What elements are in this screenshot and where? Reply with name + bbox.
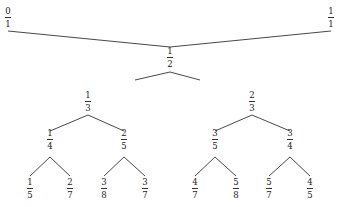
fraction-node: 47 (188, 178, 202, 200)
tree-edge (30, 157, 50, 176)
fraction-numerator: 4 (303, 178, 317, 187)
fraction-denominator: 2 (163, 60, 177, 69)
fraction-numerator: 1 (163, 47, 177, 56)
fraction-node: 38 (97, 178, 111, 200)
fraction-denominator: 5 (208, 142, 222, 151)
fraction-node: 27 (63, 178, 77, 200)
fraction-node: 45 (303, 178, 317, 200)
fraction-numerator: 1 (324, 7, 338, 16)
fraction-denominator: 5 (117, 142, 131, 151)
fraction-bar (249, 101, 255, 102)
fraction-denominator: 8 (97, 191, 111, 200)
fraction-denominator: 8 (229, 191, 243, 200)
fraction-bar (287, 139, 293, 140)
fraction-denominator: 5 (303, 191, 317, 200)
fraction-node: 25 (117, 129, 131, 151)
fraction-bar (47, 139, 53, 140)
tree-edge (124, 157, 145, 176)
fraction-node: 34 (283, 129, 297, 151)
fraction-bar (85, 101, 91, 102)
fraction-denominator: 7 (63, 191, 77, 200)
fraction-denominator: 4 (283, 142, 297, 151)
fraction-denominator: 1 (324, 20, 338, 29)
fraction-numerator: 3 (283, 129, 297, 138)
fraction-numerator: 3 (208, 129, 222, 138)
fraction-bar (212, 139, 218, 140)
fraction-denominator: 4 (43, 142, 57, 151)
tree-edge (170, 31, 331, 47)
fraction-node: 12 (163, 47, 177, 69)
fraction-denominator: 1 (1, 20, 15, 29)
fraction-bar (307, 188, 313, 189)
fraction-numerator: 2 (63, 178, 77, 187)
fraction-numerator: 2 (117, 129, 131, 138)
fraction-numerator: 5 (229, 178, 243, 187)
tree-edge (269, 157, 290, 176)
fraction-node: 15 (23, 178, 37, 200)
fraction-denominator: 5 (23, 191, 37, 200)
tree-edge (290, 157, 310, 176)
tree-edge (195, 157, 215, 176)
fraction-node: 23 (245, 91, 259, 113)
fraction-node: 13 (81, 91, 95, 113)
fraction-bar (121, 139, 127, 140)
fraction-bar (142, 188, 148, 189)
fraction-bar (266, 188, 272, 189)
fraction-numerator: 1 (81, 91, 95, 100)
fraction-bar (27, 188, 33, 189)
tree-edge (215, 157, 236, 176)
fraction-bar (167, 57, 173, 58)
fraction-node: 11 (324, 7, 338, 29)
tree-edge (170, 72, 200, 80)
fraction-bar (192, 188, 198, 189)
fraction-node: 14 (43, 129, 57, 151)
fraction-node: 57 (262, 178, 276, 200)
fraction-numerator: 1 (43, 129, 57, 138)
fraction-denominator: 7 (262, 191, 276, 200)
fraction-bar (101, 188, 107, 189)
fraction-node: 37 (138, 178, 152, 200)
tree-edge (8, 31, 170, 47)
tree-edge (135, 72, 170, 80)
fraction-denominator: 7 (188, 191, 202, 200)
fraction-node: 01 (1, 7, 15, 29)
fraction-node: 35 (208, 129, 222, 151)
fraction-numerator: 3 (97, 178, 111, 187)
tree-edges (0, 0, 340, 207)
tree-edge (104, 157, 124, 176)
fraction-numerator: 4 (188, 178, 202, 187)
fraction-node: 58 (229, 178, 243, 200)
fraction-numerator: 0 (1, 7, 15, 16)
fraction-denominator: 3 (245, 104, 259, 113)
fraction-numerator: 3 (138, 178, 152, 187)
fraction-denominator: 7 (138, 191, 152, 200)
fraction-bar (5, 17, 11, 18)
fraction-bar (328, 17, 334, 18)
fraction-numerator: 1 (23, 178, 37, 187)
fraction-bar (233, 188, 239, 189)
tree-edge (50, 157, 70, 176)
fraction-numerator: 5 (262, 178, 276, 187)
fraction-denominator: 3 (81, 104, 95, 113)
fraction-numerator: 2 (245, 91, 259, 100)
fraction-bar (67, 188, 73, 189)
